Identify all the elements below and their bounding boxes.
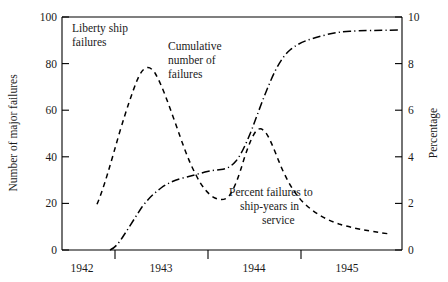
annotation-percent-line-2: ship-years in	[240, 200, 299, 213]
annotation-percent-line-3: service	[262, 214, 295, 226]
right-ticklabel-0: 0	[408, 244, 414, 256]
x-ticklabel-1945: 1945	[336, 262, 359, 274]
right-ticklabel-2: 2	[408, 197, 414, 209]
x-ticklabel-1944: 1944	[243, 262, 266, 274]
right-ticklabel-8: 8	[408, 58, 414, 70]
chart-svg: 0 20 40 60 80 100 0 2 4 6 8 10	[0, 0, 448, 282]
right-ticklabel-10: 10	[408, 11, 420, 23]
annotation-liberty-line-1: Liberty ship	[72, 22, 128, 35]
annotation-percent-line-1: Percent failures to	[229, 186, 313, 198]
left-ticklabel-40: 40	[46, 151, 58, 163]
chart-figure: 0 20 40 60 80 100 0 2 4 6 8 10	[0, 0, 448, 282]
right-ticklabel-6: 6	[408, 104, 414, 116]
left-ticklabel-20: 20	[46, 197, 58, 209]
right-ticklabel-4: 4	[408, 151, 414, 163]
left-ticklabel-60: 60	[46, 104, 58, 116]
left-ticklabel-80: 80	[46, 58, 58, 70]
y-axis-label: Number of major failures	[7, 74, 20, 192]
y2-axis-label: Percentage	[427, 108, 440, 158]
annotation-cumulative-line-2: number of	[168, 54, 216, 66]
annotation-liberty-line-2: failures	[72, 36, 107, 48]
annotation-cumulative-line-1: Cumulative	[168, 40, 222, 52]
left-ticklabel-100: 100	[40, 11, 58, 23]
chart-background	[0, 0, 448, 282]
left-ticklabel-0: 0	[51, 244, 57, 256]
annotation-cumulative-line-3: failures	[168, 68, 203, 80]
x-ticklabel-1942: 1942	[71, 262, 94, 274]
x-ticklabel-1943: 1943	[150, 262, 173, 274]
